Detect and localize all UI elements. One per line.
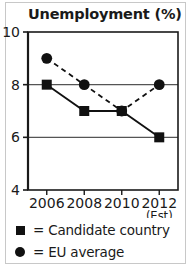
- square-marker-icon: [10, 226, 30, 235]
- y-axis-tick-label: 6: [11, 129, 20, 145]
- data-point-eu-average: [154, 79, 165, 90]
- y-axis-tick-label: 4: [11, 182, 20, 198]
- chart-page: Unemployment (%) 468102006200820102012(E…: [0, 0, 195, 266]
- x-axis-tick-label: 2010: [104, 195, 140, 211]
- data-point-candidate-country: [79, 106, 89, 116]
- data-point-candidate-country: [154, 132, 164, 142]
- data-point-candidate-country: [42, 80, 52, 90]
- x-axis-tick-label: 2006: [29, 195, 65, 211]
- legend-item-eu-average: = EU average: [10, 241, 186, 263]
- chart-legend: = Candidate country = EU average: [10, 219, 186, 263]
- chart-plot-area: 468102006200820102012(Est): [0, 0, 195, 218]
- data-point-eu-average: [41, 53, 52, 64]
- y-axis-tick-label: 8: [11, 77, 20, 93]
- x-axis-tick-sublabel: (Est): [146, 209, 173, 218]
- y-axis-tick-label: 10: [2, 24, 20, 40]
- series-line-candidate-country: [47, 85, 160, 138]
- x-axis-tick-label: 2008: [66, 195, 102, 211]
- legend-item-candidate-country: = Candidate country: [10, 219, 186, 241]
- circle-marker-icon: [10, 247, 30, 257]
- legend-label-candidate-country: = Candidate country: [30, 222, 170, 238]
- data-point-candidate-country: [117, 106, 127, 116]
- legend-label-eu-average: = EU average: [30, 244, 124, 260]
- data-point-eu-average: [79, 79, 90, 90]
